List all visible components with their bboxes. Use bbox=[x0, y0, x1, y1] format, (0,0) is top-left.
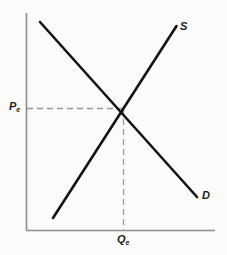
supply-demand-chart: S D Pe Qe bbox=[0, 0, 227, 255]
equilibrium-price-label: Pe bbox=[9, 101, 20, 112]
equilibrium-price-label-subscript: e bbox=[16, 106, 20, 113]
equilibrium-quantity-label: Qe bbox=[117, 234, 129, 245]
supply-curve bbox=[53, 26, 177, 218]
equilibrium-quantity-label-subscript: e bbox=[126, 239, 130, 246]
demand-curve-label: D bbox=[202, 190, 210, 201]
supply-curve-label-text: S bbox=[180, 20, 187, 32]
equilibrium-quantity-label-main: Q bbox=[117, 233, 126, 245]
demand-curve bbox=[40, 22, 197, 197]
chart-canvas bbox=[0, 0, 227, 255]
demand-curve-label-text: D bbox=[202, 189, 210, 201]
supply-curve-label: S bbox=[180, 21, 187, 32]
